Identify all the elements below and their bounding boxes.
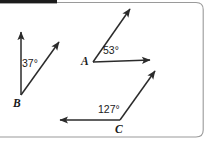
angle-a-diagonal-ray — [93, 9, 130, 62]
geometry-figure: 37° B 53° A 127° C — [0, 0, 205, 144]
angle-a-horizontal-ray — [93, 60, 150, 62]
angle-c-diagonal-ray — [120, 71, 155, 120]
angle-b-group — [21, 32, 59, 95]
page-border — [0, 3, 203, 138]
angle-a-group — [93, 9, 150, 62]
header-bar — [0, 0, 57, 3]
figure-canvas — [0, 0, 205, 144]
angle-c-group — [60, 71, 155, 120]
angle-b-diagonal-ray — [21, 42, 59, 95]
